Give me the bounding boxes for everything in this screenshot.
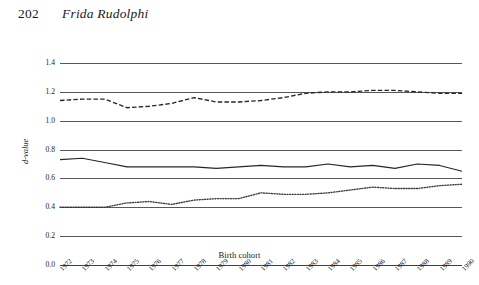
author-name: Frida Rudolphi [62,6,148,22]
data-series-group [60,63,462,265]
plot-area: 0.00.20.40.60.81.01.21.4 [60,63,462,265]
y-tick-label: 1.0 [46,117,56,125]
x-axis-ticks: 1972197319741975197619771978197919801981… [60,268,462,285]
middle-solid-series [60,158,462,171]
upper-dashed-series [60,90,462,107]
y-tick-label: 1.2 [46,88,56,96]
y-axis-label: d-value [21,139,30,164]
y-tick-label: 0.0 [46,261,56,269]
x-axis-label: Birth cohort [0,250,479,260]
y-tick-label: 1.4 [46,59,56,67]
y-tick-label: 0.4 [46,203,56,211]
running-head: 202 Frida Rudolphi [0,6,479,28]
book-page: 202 Frida Rudolphi d-value 0.00.20.40.60… [0,0,479,285]
y-tick-label: 0.2 [46,232,56,240]
figure: d-value 0.00.20.40.60.81.01.21.4 1972197… [0,28,479,285]
x-tick-label: 1990 [461,258,476,273]
y-tick-label: 0.6 [46,175,56,183]
page-number: 202 [18,6,39,22]
y-tick-label: 0.8 [46,146,56,154]
lower-dotted-series [60,184,462,207]
